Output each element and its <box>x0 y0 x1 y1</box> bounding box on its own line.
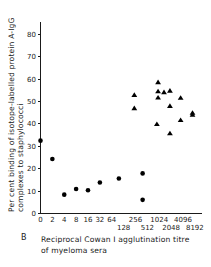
x-axis-ticks: 02481632641282565121024204840968192 <box>38 216 204 232</box>
x-tick-label: 2048 <box>162 224 180 232</box>
x-tick-label: 16 <box>84 216 93 224</box>
data-point-triangle <box>155 95 161 100</box>
data-point-triangle <box>131 92 137 97</box>
data-point-circle <box>98 180 103 185</box>
x-tick-label: 64 <box>107 216 116 224</box>
x-tick-label: 128 <box>117 224 130 232</box>
y-tick-label: 80 <box>27 31 36 39</box>
data-series-triangles <box>131 80 195 136</box>
data-point-triangle <box>167 103 173 108</box>
data-point-circle <box>86 188 91 193</box>
y-tick-label: 0 <box>32 210 36 218</box>
x-tick-label: 0 <box>38 216 42 224</box>
y-tick-label: 20 <box>27 165 36 173</box>
data-point-circle <box>50 157 55 162</box>
y-tick-label: 50 <box>27 98 36 106</box>
figure-panel-b: 01020304050607080 0248163264128256512102… <box>0 0 211 267</box>
x-tick-label: 4 <box>62 216 67 224</box>
data-point-circle <box>140 171 145 176</box>
data-point-triangle <box>178 95 184 100</box>
y-axis-ticks: 01020304050607080 <box>27 31 40 218</box>
data-point-triangle <box>154 121 160 126</box>
data-point-triangle <box>161 90 167 95</box>
data-point-triangle <box>155 89 161 94</box>
x-tick-label: 8 <box>74 216 78 224</box>
data-point-circle <box>74 187 79 192</box>
x-axis-title-line1: Reciprocal Cowan I agglutination titre <box>41 235 190 244</box>
data-series-circles <box>38 138 145 202</box>
y-axis-title-line2: complexes to staphylococci <box>16 103 25 212</box>
y-axis-title-line1: Per cent binding of isotope-labelled pro… <box>7 17 16 212</box>
x-tick-label: 256 <box>129 216 143 224</box>
x-tick-label: 4096 <box>174 216 192 224</box>
x-tick-label: 8192 <box>186 224 204 232</box>
y-tick-label: 60 <box>27 76 36 84</box>
x-tick-label: 1024 <box>150 216 168 224</box>
data-point-circle <box>62 192 67 197</box>
x-tick-label: 512 <box>141 224 154 232</box>
scatter-plot: 01020304050607080 0248163264128256512102… <box>0 0 211 267</box>
data-point-circle <box>117 176 122 181</box>
data-point-triangle <box>131 106 137 111</box>
x-tick-label: 32 <box>95 216 104 224</box>
x-tick-label: 2 <box>50 216 54 224</box>
panel-label: B <box>21 233 27 242</box>
data-point-triangle <box>167 88 173 93</box>
data-point-triangle <box>178 117 184 122</box>
y-tick-label: 70 <box>27 53 36 61</box>
y-tick-label: 10 <box>27 188 36 196</box>
data-point-circle <box>38 138 43 143</box>
data-point-triangle <box>155 80 161 85</box>
y-tick-label: 40 <box>27 120 36 128</box>
y-tick-label: 30 <box>27 143 36 151</box>
x-axis-title-line2: of myeloma sera <box>41 246 107 255</box>
data-point-triangle <box>167 131 173 136</box>
data-point-circle <box>140 198 145 203</box>
